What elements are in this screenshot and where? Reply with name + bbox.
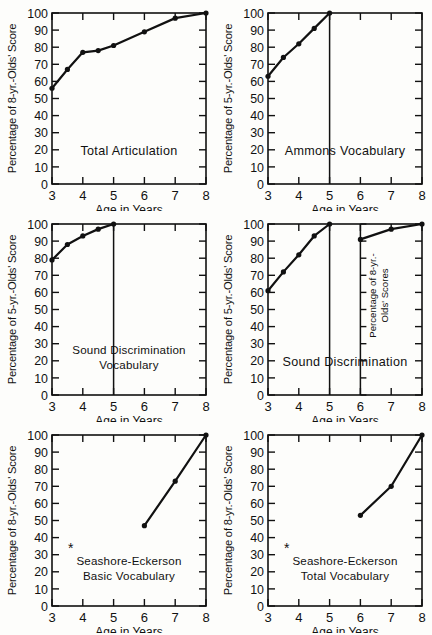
x-tick-label: 4 xyxy=(295,188,302,203)
x-tick-label: 6 xyxy=(357,188,364,203)
data-point xyxy=(296,41,301,46)
y-tick-label: 10 xyxy=(250,372,264,386)
x-tick-label: 6 xyxy=(141,399,148,414)
y-tick-label: 100 xyxy=(243,218,264,232)
data-point xyxy=(173,479,178,484)
y-tick-label: 80 xyxy=(34,463,48,477)
data-point xyxy=(65,67,70,72)
y-tick-label: 50 xyxy=(250,303,264,317)
x-tick-label: 7 xyxy=(172,399,179,414)
inset-data-point xyxy=(358,237,363,242)
panel-title-line1: Seashore-Eckerson xyxy=(292,554,397,567)
x-axis-label: Age in Years xyxy=(95,625,162,633)
data-point xyxy=(142,29,147,34)
y-tick-label: 80 xyxy=(250,41,264,55)
panel-title: Total Articulation xyxy=(80,144,177,158)
x-tick-label: 7 xyxy=(172,610,179,625)
y-tick-label: 0 xyxy=(41,600,48,614)
x-tick-label: 6 xyxy=(141,188,148,203)
y-tick-label: 0 xyxy=(257,389,264,403)
x-axis-label: Age in Years xyxy=(311,625,378,633)
x-tick-label: 3 xyxy=(48,610,55,625)
x-tick-label: 8 xyxy=(202,399,209,414)
data-point xyxy=(281,269,286,274)
y-tick-label: 30 xyxy=(34,126,48,140)
data-point xyxy=(312,26,317,31)
y-tick-label: 70 xyxy=(250,269,264,283)
panel-title: Ammons Vocabulary xyxy=(285,144,406,158)
chart-panel-seashore-eckerson-total-vocabulary: 0102030405060708090100345678Age in Years… xyxy=(216,422,432,633)
x-tick-label: 8 xyxy=(202,188,209,203)
x-tick-label: 4 xyxy=(79,188,86,203)
chart-panel-total-articulation: 0102030405060708090100345678Age in Years… xyxy=(0,0,216,211)
y-tick-label: 20 xyxy=(34,143,48,157)
y-tick-label: 80 xyxy=(34,252,48,266)
y-tick-label: 10 xyxy=(250,161,264,175)
y-tick-label: 30 xyxy=(250,126,264,140)
y-tick-label: 10 xyxy=(34,161,48,175)
x-tick-label: 5 xyxy=(110,399,117,414)
y-axis-label: Percentage of 5-yr.-Olds' Score xyxy=(222,24,234,174)
y-tick-label: 100 xyxy=(27,218,48,232)
y-tick-label: 90 xyxy=(34,235,48,249)
plot-frame xyxy=(268,224,422,395)
x-tick-label: 7 xyxy=(172,188,179,203)
data-point xyxy=(203,10,208,15)
x-axis-label: Age in Years xyxy=(95,203,162,211)
data-point xyxy=(358,513,363,518)
y-tick-label: 40 xyxy=(34,320,48,334)
x-tick-label: 4 xyxy=(79,610,86,625)
y-tick-label: 90 xyxy=(34,446,48,460)
data-point xyxy=(49,86,54,91)
x-tick-label: 3 xyxy=(264,610,271,625)
y-tick-label: 20 xyxy=(34,565,48,579)
asterisk-marker: * xyxy=(68,540,74,556)
y-tick-label: 90 xyxy=(250,24,264,38)
inset-data-point xyxy=(389,227,394,232)
chart-panel-ammons-vocabulary: 0102030405060708090100345678Age in Years… xyxy=(216,0,432,211)
data-point xyxy=(327,10,332,15)
asterisk-marker: * xyxy=(284,540,290,556)
y-tick-label: 60 xyxy=(250,75,264,89)
x-tick-label: 5 xyxy=(110,610,117,625)
data-point xyxy=(203,432,208,437)
x-tick-label: 6 xyxy=(357,610,364,625)
y-tick-label: 50 xyxy=(34,303,48,317)
y-tick-label: 30 xyxy=(250,337,264,351)
data-point xyxy=(419,432,424,437)
y-tick-label: 10 xyxy=(34,583,48,597)
y-tick-label: 10 xyxy=(250,583,264,597)
y-axis-label: Percentage of 8-yr.-Olds' Score xyxy=(222,446,234,596)
x-tick-label: 7 xyxy=(388,610,395,625)
x-tick-label: 8 xyxy=(418,399,425,414)
y-tick-label: 60 xyxy=(250,497,264,511)
y-tick-label: 50 xyxy=(34,514,48,528)
y-tick-label: 90 xyxy=(34,24,48,38)
chart-panel-seashore-eckerson-basic-vocabulary: 0102030405060708090100345678Age in Years… xyxy=(0,422,216,633)
y-tick-label: 70 xyxy=(34,58,48,72)
inset-data-point xyxy=(419,221,424,226)
x-tick-label: 4 xyxy=(295,399,302,414)
y-tick-label: 20 xyxy=(250,354,264,368)
y-axis-label: Percentage of 5-yr.-Olds' Score xyxy=(222,235,234,385)
x-tick-label: 3 xyxy=(48,399,55,414)
panel-title-line2: Vocabulary xyxy=(99,358,158,371)
y-tick-label: 70 xyxy=(250,480,264,494)
chart-panel-sound-discrimination-vocabulary: 0102030405060708090100345678Age in Years… xyxy=(0,211,216,422)
y-axis-label: Percentage of 8-yr.-Olds' Score xyxy=(6,24,18,174)
y-tick-label: 40 xyxy=(250,109,264,123)
data-point xyxy=(49,257,54,262)
y-tick-label: 20 xyxy=(34,354,48,368)
x-tick-label: 8 xyxy=(418,188,425,203)
y-tick-label: 60 xyxy=(34,75,48,89)
y-tick-label: 30 xyxy=(34,548,48,562)
x-tick-label: 3 xyxy=(48,188,55,203)
data-line xyxy=(360,435,422,515)
data-point xyxy=(281,55,286,60)
y-tick-label: 50 xyxy=(250,92,264,106)
y-tick-label: 60 xyxy=(34,286,48,300)
y-tick-label: 70 xyxy=(34,480,48,494)
data-point xyxy=(296,252,301,257)
data-point xyxy=(65,242,70,247)
y-tick-label: 30 xyxy=(34,337,48,351)
